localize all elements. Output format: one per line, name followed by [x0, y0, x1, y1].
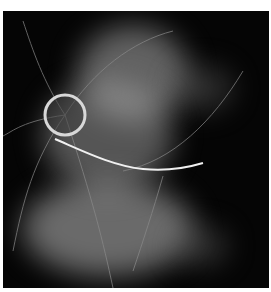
fundus-image — [3, 11, 269, 288]
vessels-overlay — [3, 11, 269, 288]
optic-disc — [45, 95, 85, 135]
